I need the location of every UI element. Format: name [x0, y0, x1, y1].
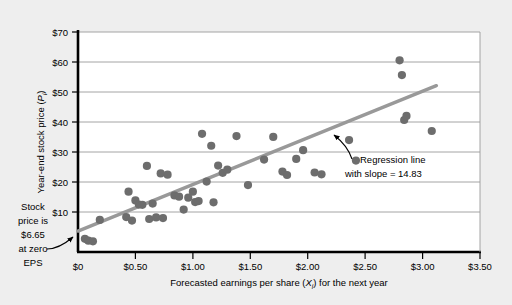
data-point [428, 127, 436, 135]
svg-text:Year-end stock price (Pi): Year-end stock price (Pi) [35, 90, 48, 193]
left-note-line: EPS [23, 257, 42, 268]
svg-text:Forecasted earnings per share: Forecasted earnings per share (Xi) for t… [170, 277, 387, 290]
data-point [145, 215, 153, 223]
y-axis-title: Year-end stock price (Pi) [35, 90, 48, 193]
y-tick-label: $20 [52, 177, 68, 188]
data-point [198, 130, 206, 138]
data-point [260, 156, 268, 164]
data-point [317, 170, 325, 178]
y-axis-title-text: Year-end stock price ( [35, 101, 46, 194]
data-point [149, 200, 157, 208]
left-note-line: price is [18, 215, 48, 226]
data-point [311, 168, 319, 176]
data-point [402, 112, 410, 120]
data-point [203, 178, 211, 186]
left-note-line: Stock [21, 201, 45, 212]
gridlines [78, 32, 480, 212]
x-tick-label: $1.50 [238, 261, 262, 272]
scatter-chart: $70 $60 $50 $40 $30 $20 $10 $0 $0.50 $1.… [0, 0, 512, 305]
scatter-markers [81, 56, 436, 245]
regression-note-line: Regression line [360, 154, 425, 165]
data-point [396, 56, 404, 64]
x-axis-title-text: Forecasted earnings per share ( [170, 277, 306, 288]
chart-figure: $70 $60 $50 $40 $30 $20 $10 $0 $0.50 $1.… [0, 0, 512, 305]
data-point [124, 188, 132, 196]
y-tick-label: $30 [52, 147, 68, 158]
y-tick-labels: $70 $60 $50 $40 $30 $20 $10 [52, 27, 68, 218]
data-point [345, 136, 353, 144]
data-point [138, 201, 146, 209]
data-point [175, 193, 183, 201]
x-tick-label: $0.50 [124, 261, 148, 272]
data-point [163, 171, 171, 179]
data-point [189, 188, 197, 196]
data-point [352, 156, 360, 164]
data-point [244, 181, 252, 189]
data-point [128, 216, 136, 224]
data-point [299, 146, 307, 154]
data-point [195, 197, 203, 205]
data-point [180, 205, 188, 213]
left-note-line: at zero [18, 243, 47, 254]
y-tick-label: $70 [52, 27, 68, 38]
x-tick-label: $3.00 [411, 261, 435, 272]
x-axis-title-close: ) for the next year [313, 277, 387, 288]
axis-lines [77, 30, 481, 252]
y-tick-label: $60 [52, 57, 68, 68]
data-point [89, 237, 97, 245]
x-tick-labels: $0 $0.50 $1.00 $1.50 $2.00 $2.50 $3.00 $… [73, 261, 492, 272]
data-point [269, 133, 277, 141]
data-point [209, 198, 217, 206]
data-point [157, 169, 165, 177]
x-axis-title: Forecasted earnings per share (Xi) for t… [170, 277, 387, 290]
y-axis-title-close: ) [35, 90, 46, 93]
regression-note-line: with slope = 14.83 [344, 168, 422, 179]
y-tick-label: $10 [52, 207, 68, 218]
y-tick-label: $50 [52, 87, 68, 98]
data-point [223, 166, 231, 174]
x-tick-label: $2.50 [353, 261, 377, 272]
data-point [214, 161, 222, 169]
x-tick-label: $2.00 [296, 261, 320, 272]
y-tick-label: $40 [52, 117, 68, 128]
data-point [398, 71, 406, 79]
left-note-line: $6.65 [21, 229, 45, 240]
x-tick-label: $1.00 [181, 261, 205, 272]
data-point [283, 171, 291, 179]
data-point [292, 155, 300, 163]
data-point [143, 162, 151, 170]
data-point [159, 214, 167, 222]
data-point [96, 216, 104, 224]
x-tick-label: $3.50 [468, 261, 492, 272]
data-point [232, 132, 240, 140]
left-note: Stock price is $6.65 at zero EPS [18, 201, 48, 268]
data-point [207, 142, 215, 150]
x-tick-label: $0 [73, 261, 84, 272]
left-note-leader [47, 237, 73, 249]
